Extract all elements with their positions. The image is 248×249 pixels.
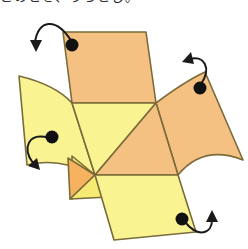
fold-dot-0 [66, 39, 79, 52]
fold-arrow-head-1 [182, 52, 194, 64]
polyhedron-net-figure [0, 0, 248, 249]
fold-arrow-head-0 [30, 40, 42, 52]
fold-dot-2 [46, 131, 59, 144]
fold-dot-3 [176, 213, 189, 226]
fold-dot-1 [194, 82, 207, 95]
fold-arrow-head-3 [206, 210, 218, 222]
face-bottom-panel [95, 175, 196, 240]
diagram-canvas: このとき、うらとじ。 [0, 0, 248, 249]
